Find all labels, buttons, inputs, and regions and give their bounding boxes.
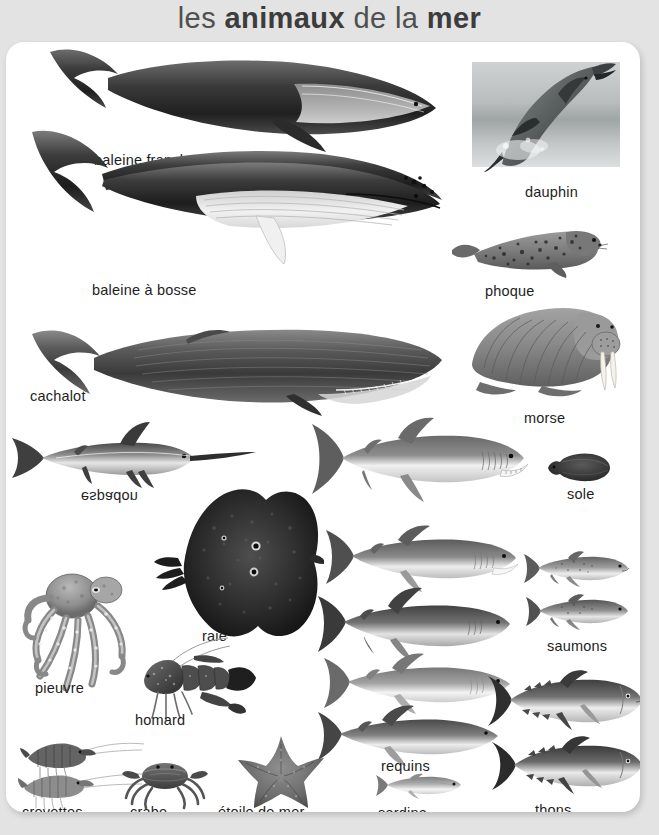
figure-salmon-1 — [522, 548, 632, 588]
figure-sole — [540, 446, 614, 486]
label-dolphin: dauphin — [525, 184, 578, 200]
figure-shark-5 — [314, 704, 504, 766]
figure-tuna-1 — [484, 670, 640, 732]
title-word-dela: de la — [345, 2, 427, 34]
label-sole: sole — [567, 486, 594, 502]
label-tuna: thons — [535, 802, 571, 812]
figure-crab — [118, 750, 214, 812]
page-title: les animaux de la mer — [0, 2, 659, 35]
label-swordfish: espadon — [81, 489, 138, 505]
figure-shark-2 — [322, 522, 522, 592]
label-humpback-whale: baleine à bosse — [92, 282, 197, 298]
figure-dolphin — [472, 54, 620, 174]
figure-walrus — [458, 294, 628, 409]
label-lobster: homard — [135, 712, 185, 728]
title-word-animaux: animaux — [225, 2, 345, 34]
figure-salmon-2 — [524, 592, 632, 630]
figure-ray — [154, 484, 324, 644]
title-word-les: les — [178, 2, 225, 34]
figure-starfish — [236, 734, 326, 812]
label-shrimp: crevettes — [22, 804, 83, 812]
figure-sardine — [374, 770, 464, 800]
poster-card: baleine franche — [6, 42, 640, 812]
label-starfish: étoile de mer — [218, 804, 304, 812]
figure-humpback-whale — [16, 120, 446, 265]
label-crab: crabe — [130, 804, 167, 812]
figure-seal — [448, 214, 608, 284]
label-octopus: pieuvre — [35, 680, 84, 696]
poster: les animaux de la mer — [0, 0, 659, 835]
figure-shark-1 — [306, 416, 531, 506]
label-sperm-whale: cachalot — [30, 388, 86, 404]
figure-shark-3 — [314, 586, 514, 660]
label-sardine: sardine — [378, 805, 427, 812]
label-salmon: saumons — [547, 638, 607, 654]
title-word-mer: mer — [427, 2, 481, 34]
figure-tuna-2 — [488, 736, 640, 796]
